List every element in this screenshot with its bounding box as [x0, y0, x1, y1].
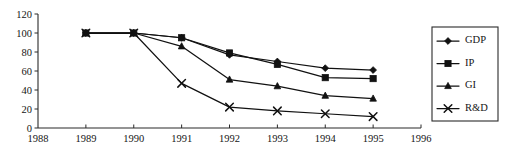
x-tick-label: 1996: [411, 133, 432, 144]
x-tick-label: 1989: [75, 133, 96, 144]
x-axis-group: 198819891990199119921993199419951996: [28, 125, 432, 145]
marker-square: [226, 50, 232, 56]
y-tick-label: 60: [22, 66, 33, 77]
y-tick-label: 20: [22, 104, 33, 115]
line-chart: 020406080100120 198819891990199119921993…: [0, 0, 510, 153]
y-tick-label: 120: [16, 9, 32, 20]
marker-x-icon: [178, 80, 186, 88]
marker-square: [179, 35, 185, 41]
marker-square: [370, 76, 376, 82]
x-tick-label: 1994: [315, 133, 337, 144]
chart-legend: GDPIPGIR&D: [432, 27, 498, 121]
marker-diamond: [322, 65, 329, 72]
x-tick-label: 1992: [219, 133, 240, 144]
marker-diamond: [370, 67, 377, 74]
legend-item-label: R&D: [465, 102, 488, 113]
y-axis-tick-labels: 020406080100120: [16, 9, 32, 134]
series-gi: [83, 29, 377, 101]
x-tick-label: 1993: [267, 133, 288, 144]
y-axis-group: 020406080100120: [16, 9, 38, 134]
y-tick-label: 100: [16, 28, 32, 39]
y-tick-label: 0: [27, 123, 32, 134]
x-axis-tick-labels: 198819891990199119921993199419951996: [28, 133, 432, 144]
legend-item-label: GI: [465, 79, 477, 90]
series-line: [86, 33, 373, 99]
x-tick-label: 1990: [123, 133, 144, 144]
series-r-d: [82, 29, 377, 120]
x-tick-label: 1995: [363, 133, 384, 144]
x-tick-label: 1991: [171, 133, 192, 144]
y-tick-label: 40: [22, 85, 33, 96]
marker-triangle: [226, 76, 233, 82]
marker-square: [445, 60, 451, 66]
chart-canvas: 020406080100120 198819891990199119921993…: [0, 0, 510, 153]
legend-item-label: GDP: [465, 34, 486, 45]
x-tick-label: 1988: [28, 133, 49, 144]
series-ip: [83, 30, 376, 82]
legend-item-label: IP: [465, 57, 474, 68]
y-tick-label: 80: [22, 47, 33, 58]
series-line: [86, 33, 373, 117]
marker-square: [322, 75, 328, 81]
data-series-layer: [82, 29, 377, 120]
marker-square: [274, 61, 280, 67]
